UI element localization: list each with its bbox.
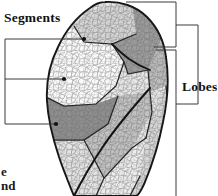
lobes-label: Lobes (182, 79, 218, 95)
lung-body (40, 0, 176, 196)
caption-fragment-line-2: nd (1, 178, 15, 194)
leader-dot-upper (82, 37, 86, 41)
cell-texture-secondary (40, 0, 176, 196)
leader-dot-lower (54, 122, 58, 126)
lung-diagram (0, 0, 218, 196)
figure-canvas: Segments Lobes e nd (0, 0, 218, 196)
segments-label: Segments (4, 10, 60, 26)
leader-dot-middle (62, 77, 66, 81)
